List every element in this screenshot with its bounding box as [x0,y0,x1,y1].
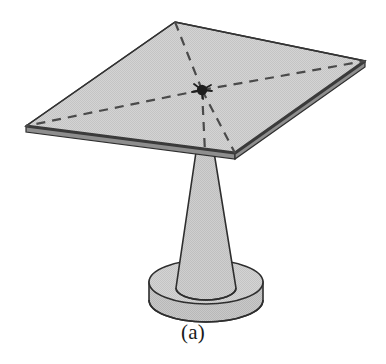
stem-body [176,152,236,300]
pedestal-plate-illustration: Square plate supported by a tapered pede… [0,0,386,364]
center-dot-spur-e [202,90,212,91]
center-dot-spur-s [202,90,203,99]
figure-container: Square plate supported by a tapered pede… [0,0,386,364]
figure-caption: (a) [0,322,386,343]
pedestal-stem [176,152,236,300]
